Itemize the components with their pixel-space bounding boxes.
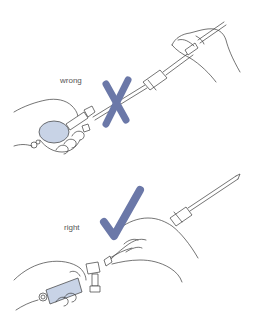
label-right: right xyxy=(64,223,80,232)
bulb-icon xyxy=(46,278,82,304)
hand-left-icon xyxy=(14,261,100,310)
label-wrong: wrong xyxy=(60,76,82,85)
right-technique-illustration xyxy=(0,160,256,318)
wrong-technique-illustration xyxy=(0,0,256,160)
hand-right-icon xyxy=(172,29,240,82)
bulb-icon xyxy=(39,121,69,143)
panel-right: right xyxy=(0,160,256,318)
pipette-icon xyxy=(170,174,240,226)
panel-wrong: wrong xyxy=(0,0,256,160)
hand-left-icon xyxy=(14,99,95,154)
check-mark-icon xyxy=(104,190,140,236)
